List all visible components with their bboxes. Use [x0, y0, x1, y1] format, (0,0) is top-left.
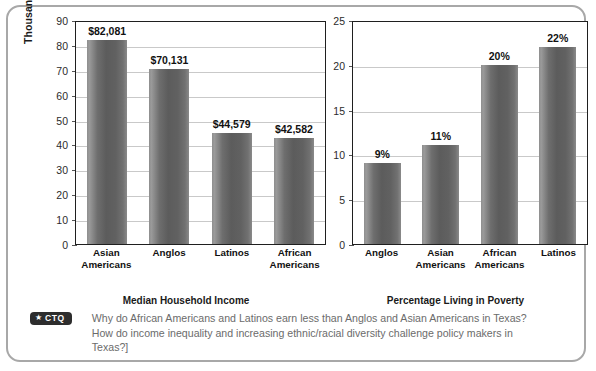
category-label-line: Asian [412, 247, 469, 259]
left-chart-y-tick-label: 0 [62, 239, 68, 251]
right-chart-x-axis-title: Percentage Living in Poverty [323, 295, 588, 306]
category-label-line: Americans [471, 259, 528, 271]
bar-value-label: 20% [489, 50, 510, 62]
left-chart-bars: $82,081$70,131$44,579$42,582 [76, 22, 325, 244]
right-chart-plot-area: 9%11%20%22% [352, 21, 588, 245]
left-chart-x-axis-title: Median Household Income [46, 295, 326, 306]
category-label: AsianAmericans [411, 247, 470, 270]
left-chart-y-tick-label: 90 [56, 15, 68, 27]
right-chart-y-tick-label: 15 [333, 105, 345, 117]
category-label-line: Americans [264, 259, 325, 271]
bar-slot: 20% [470, 22, 529, 244]
right-chart-y-tick-mark [349, 245, 354, 246]
category-label: Latinos [529, 247, 588, 270]
left-chart-y-tick-mark [72, 245, 77, 246]
category-label: AfricanAmericans [263, 247, 326, 270]
bar-value-label: $42,582 [275, 123, 313, 135]
left-chart-y-ticks: 9080706050403020100 [46, 21, 72, 245]
right-chart-y-tick-label: 20 [333, 60, 345, 72]
left-chart-plot-area: $82,081$70,131$44,579$42,582 [75, 21, 326, 245]
bar-slot: 9% [353, 22, 412, 244]
left-chart-y-tick-label: 50 [56, 115, 68, 127]
bar-value-label: $70,131 [150, 54, 188, 66]
bar: 20% [481, 65, 518, 244]
critical-thinking-question-block: ★ CTQ Why do African Americans and Latin… [30, 311, 562, 355]
ctq-caption-text: Why do African Americans and Latinos ear… [92, 311, 540, 355]
category-label-line: Latinos [202, 247, 263, 259]
bar-value-label: $44,579 [213, 118, 251, 130]
category-label-line: Americans [412, 259, 469, 271]
bar-value-label: 22% [547, 32, 568, 44]
bar-value-label: $82,081 [88, 25, 126, 37]
right-chart-bars: 9%11%20%22% [353, 22, 587, 244]
right-chart-category-labels: AnglosAsianAmericansAfricanAmericansLati… [352, 247, 588, 270]
right-chart-y-tick-label: 5 [339, 194, 345, 206]
bar: 22% [539, 47, 576, 244]
category-label-line: Americans [76, 259, 137, 271]
category-label: Latinos [201, 247, 264, 270]
category-label: AfricanAmericans [470, 247, 529, 270]
bar-slot: 22% [529, 22, 588, 244]
right-chart-y-tick-label: 10 [333, 149, 345, 161]
left-chart-y-tick-label: 10 [56, 214, 68, 226]
bar: $70,131 [149, 69, 189, 244]
left-chart-y-axis-title: Thousands of 2016 Dollars [22, 0, 34, 61]
category-label-line: Latinos [530, 247, 587, 259]
bar-slot: $82,081 [76, 22, 138, 244]
left-chart-y-tick-label: 80 [56, 40, 68, 52]
category-label: AsianAmericans [75, 247, 138, 270]
bar: 9% [364, 163, 401, 244]
bar: $82,081 [87, 40, 127, 244]
figure-frame: Thousands of 2016 Dollars 90807060504030… [6, 5, 586, 362]
ctq-badge: ★ CTQ [30, 312, 72, 325]
right-chart-y-ticks: 2520151050 [323, 21, 349, 245]
category-label-line: Anglos [139, 247, 200, 259]
bar: 11% [422, 145, 459, 244]
category-label: Anglos [352, 247, 411, 270]
left-chart-y-tick-label: 30 [56, 164, 68, 176]
bar-value-label: 9% [375, 148, 390, 160]
right-chart-y-tick-label: 0 [339, 239, 345, 251]
left-chart-y-tick-label: 60 [56, 90, 68, 102]
bar-slot: $42,582 [263, 22, 325, 244]
ctq-badge-label: CTQ [45, 314, 65, 323]
right-chart-y-tick-label: 25 [333, 15, 345, 27]
category-label-line: African [471, 247, 528, 259]
star-icon: ★ [35, 314, 42, 322]
bar-slot: $44,579 [201, 22, 263, 244]
category-label: Anglos [138, 247, 201, 270]
left-chart-y-tick-label: 70 [56, 65, 68, 77]
category-label-line: African [264, 247, 325, 259]
bar-slot: $70,131 [138, 22, 200, 244]
bar-value-label: 11% [431, 130, 451, 142]
category-label-line: Anglos [353, 247, 410, 259]
left-chart-category-labels: AsianAmericansAnglosLatinosAfricanAmeric… [75, 247, 326, 270]
category-label-line: Asian [76, 247, 137, 259]
bar-slot: 11% [412, 22, 471, 244]
left-chart-y-tick-label: 40 [56, 139, 68, 151]
bar: $44,579 [212, 133, 252, 244]
left-chart-y-tick-label: 20 [56, 189, 68, 201]
bar: $42,582 [274, 138, 314, 244]
